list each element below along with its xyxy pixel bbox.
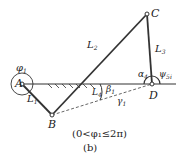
label-D: D [149, 90, 158, 101]
condition-caption: (0<φ₁≤2π) [72, 129, 127, 139]
label-A: A [15, 78, 23, 89]
label-phi1: φ1 [16, 63, 27, 74]
joint-D [150, 82, 154, 86]
label-B: B [48, 119, 56, 130]
label-alpha: α4 [138, 70, 148, 80]
label-gamma: γ1 [117, 97, 126, 107]
subfigure-label: (b) [83, 143, 97, 153]
link-L2 [52, 14, 147, 115]
label-C: C [151, 8, 159, 19]
label-psi: ψ5i [159, 70, 172, 80]
label-L4: L4 [92, 88, 102, 98]
joint-B [50, 113, 54, 117]
label-L3: L3 [155, 44, 165, 55]
label-L1: L1 [27, 94, 37, 105]
label-beta: β1 [106, 85, 115, 95]
joint-C [145, 12, 149, 16]
linkage-diagram: A B C D L1 L2 L3 L4 φ1 α4 ψ5i β1 γ1 (0<φ… [0, 0, 182, 157]
label-L2: L2 [87, 40, 97, 51]
